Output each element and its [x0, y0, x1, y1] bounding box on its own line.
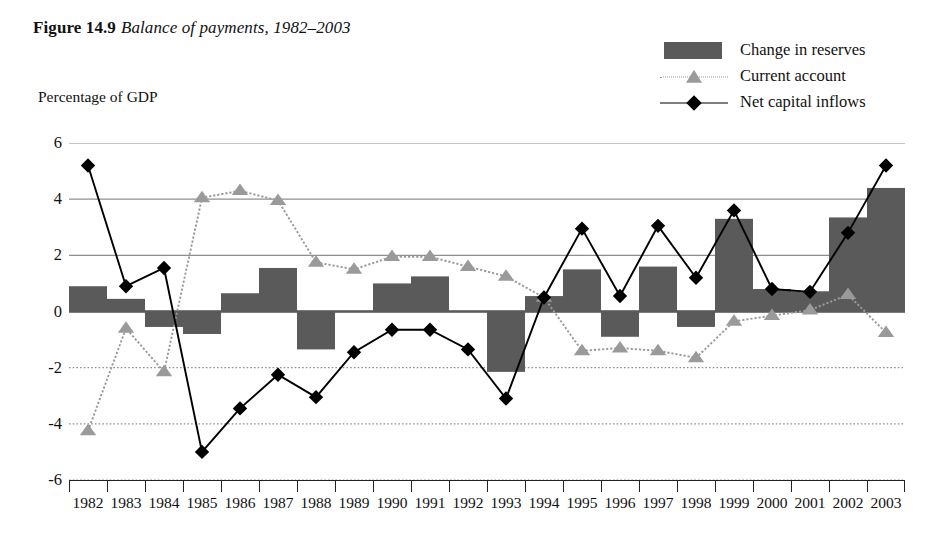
x-axis: 1982198319841985198619871988198919901991…: [69, 480, 905, 530]
marker-triangle: [118, 321, 134, 333]
x-tick-separator: [373, 480, 374, 492]
x-tick-label: 1985: [187, 494, 218, 512]
triangle-line-icon: [660, 64, 728, 89]
bar-change-in-reserves: [677, 312, 715, 327]
x-tick-label: 2001: [795, 494, 826, 512]
marker-diamond: [689, 271, 703, 285]
bar-change-in-reserves: [411, 276, 449, 311]
legend-item-change-in-reserves: Change in reserves: [660, 38, 866, 63]
x-tick-separator: [601, 480, 602, 492]
y-tick-label: 0: [54, 302, 62, 322]
y-tick-label: 6: [54, 133, 62, 153]
bar-change-in-reserves: [183, 312, 221, 334]
x-tick-label: 1997: [643, 494, 674, 512]
x-tick-label: 1986: [225, 494, 256, 512]
bar-change-in-reserves: [563, 269, 601, 311]
y-tick-label: 4: [54, 189, 62, 209]
marker-triangle: [194, 191, 210, 203]
bar-swatch-icon: [660, 38, 728, 63]
y-axis-tick-labels: 6420-2-4-6: [26, 143, 62, 480]
x-tick-label: 1998: [681, 494, 712, 512]
legend-item-current-account: Current account: [660, 64, 866, 89]
figure-container: Figure 14.9Balance of payments, 1982–200…: [0, 0, 925, 547]
bar-change-in-reserves: [69, 286, 107, 311]
x-tick-separator: [715, 480, 716, 492]
legend-label-net-capital-inflows: Net capital inflows: [740, 94, 866, 111]
bar-change-in-reserves: [259, 268, 297, 312]
x-tick-separator: [221, 480, 222, 492]
y-tick-label: -2: [48, 358, 62, 378]
x-tick-separator: [259, 480, 260, 492]
bar-change-in-reserves: [107, 299, 145, 312]
x-tick-separator: [487, 480, 488, 492]
legend-item-net-capital-inflows: Net capital inflows: [660, 90, 866, 115]
marker-triangle: [574, 344, 590, 356]
x-tick-separator: [563, 480, 564, 492]
x-tick-separator: [145, 480, 146, 492]
x-tick-label: 1993: [491, 494, 522, 512]
marker-diamond: [119, 279, 133, 293]
y-tick-label: -4: [48, 414, 62, 434]
marker-triangle: [346, 262, 362, 274]
bar-change-in-reserves: [373, 283, 411, 311]
x-tick-label: 1994: [529, 494, 560, 512]
figure-caption: Balance of payments, 1982–2003: [121, 18, 351, 37]
x-tick-separator: [411, 480, 412, 492]
x-tick-separator: [791, 480, 792, 492]
marker-triangle: [878, 325, 894, 337]
marker-diamond: [613, 289, 627, 303]
bar-change-in-reserves: [297, 312, 335, 350]
y-tick-label: -6: [48, 470, 62, 490]
legend-label-change-in-reserves: Change in reserves: [740, 42, 866, 59]
marker-triangle: [232, 184, 248, 196]
marker-triangle: [650, 344, 666, 356]
marker-diamond: [651, 219, 665, 233]
chart-canvas: [69, 143, 905, 480]
plot-area: [69, 143, 905, 480]
bar-change-in-reserves: [867, 188, 905, 312]
x-tick-label: 1987: [263, 494, 294, 512]
x-tick-separator: [753, 480, 754, 492]
bar-change-in-reserves: [221, 293, 259, 311]
x-tick-separator: [335, 480, 336, 492]
chart-legend: Change in reserves Current account Net c…: [660, 38, 866, 115]
x-tick-label: 1999: [719, 494, 750, 512]
figure-number: Figure 14.9: [33, 18, 116, 37]
marker-diamond: [423, 323, 437, 337]
x-tick-label: 2002: [833, 494, 864, 512]
x-tick-label: 2000: [757, 494, 788, 512]
x-tick-separator: [183, 480, 184, 492]
y-tick-label: 2: [54, 245, 62, 265]
marker-triangle: [156, 365, 172, 377]
legend-label-current-account: Current account: [740, 68, 846, 85]
x-tick-label: 1984: [149, 494, 180, 512]
marker-diamond: [727, 203, 741, 217]
x-tick-label: 1991: [415, 494, 446, 512]
marker-triangle: [308, 255, 324, 267]
x-tick-separator: [297, 480, 298, 492]
marker-diamond: [385, 323, 399, 337]
x-tick-label: 1995: [567, 494, 598, 512]
marker-diamond: [879, 158, 893, 172]
x-tick-separator: [525, 480, 526, 492]
marker-triangle: [80, 424, 96, 436]
y-axis-title: Percentage of GDP: [38, 88, 158, 106]
figure-title: Figure 14.9Balance of payments, 1982–200…: [33, 18, 351, 38]
marker-triangle: [612, 341, 628, 353]
x-tick-separator: [829, 480, 830, 492]
marker-diamond: [81, 158, 95, 172]
x-tick-label: 1982: [73, 494, 104, 512]
x-tick-label: 1996: [605, 494, 636, 512]
bar-change-in-reserves: [601, 312, 639, 337]
x-tick-separator: [449, 480, 450, 492]
x-tick-label: 1989: [339, 494, 370, 512]
bar-change-in-reserves: [639, 267, 677, 312]
marker-diamond: [157, 261, 171, 275]
x-tick-label: 2003: [871, 494, 902, 512]
x-tick-label: 1992: [453, 494, 484, 512]
diamond-line-icon: [660, 90, 728, 115]
marker-diamond: [575, 221, 589, 235]
x-tick-label: 1990: [377, 494, 408, 512]
x-tick-label: 1988: [301, 494, 332, 512]
x-tick-separator: [867, 480, 868, 492]
